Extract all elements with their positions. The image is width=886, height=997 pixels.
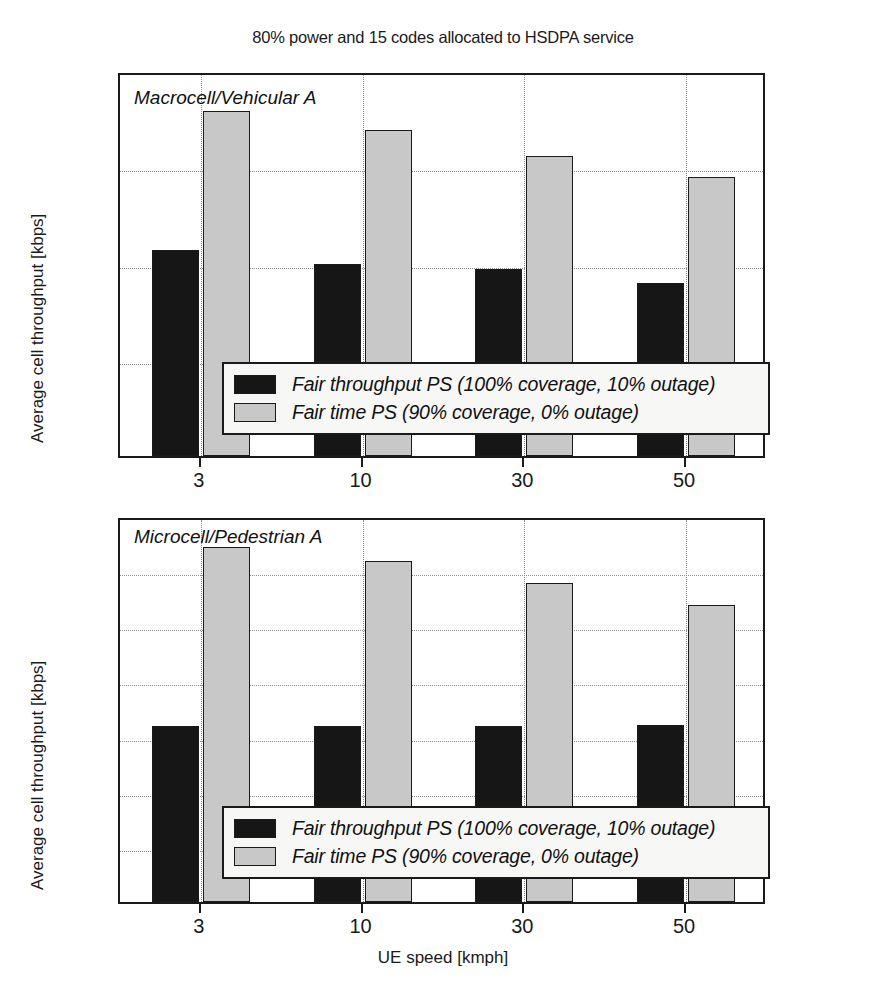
legend-macrocell: Fair throughput PS (100% coverage, 10% o…	[222, 362, 770, 435]
figure-canvas: 80% power and 15 codes allocated to HSDP…	[0, 0, 886, 997]
legend-entry-label: Fair throughput PS (100% coverage, 10% o…	[292, 373, 715, 396]
x-axis-tick	[199, 904, 201, 913]
figure-title: 80% power and 15 codes allocated to HSDP…	[0, 28, 886, 47]
legend-entry-label: Fair throughput PS (100% coverage, 10% o…	[292, 817, 715, 840]
x-axis-tick	[684, 904, 686, 913]
legend-entry: Fair throughput PS (100% coverage, 10% o…	[234, 370, 758, 398]
legend-entry-label: Fair time PS (90% coverage, 0% outage)	[292, 401, 639, 424]
gridline-vertical	[201, 520, 202, 902]
legend-entry-label: Fair time PS (90% coverage, 0% outage)	[292, 845, 639, 868]
x-axis-tick-label: 10	[311, 470, 411, 490]
legend-microcell: Fair throughput PS (100% coverage, 10% o…	[222, 806, 770, 879]
x-axis-tick	[522, 458, 524, 467]
legend-swatch-light-icon	[234, 403, 276, 422]
x-axis-tick-label: 3	[149, 916, 249, 936]
y-axis-title-bottom: Average cell throughput [kbps]	[28, 661, 48, 890]
x-axis-title: UE speed [kmph]	[0, 948, 886, 968]
gridline-vertical	[201, 75, 202, 456]
legend-entry: Fair time PS (90% coverage, 0% outage)	[234, 842, 758, 870]
bar	[152, 250, 199, 456]
x-axis-tick-label: 50	[634, 470, 734, 490]
legend-entry: Fair time PS (90% coverage, 0% outage)	[234, 398, 758, 426]
bar	[152, 726, 199, 902]
x-axis-tick-label: 30	[472, 470, 572, 490]
panel-annotation-macrocell: Macrocell/Vehicular A	[134, 87, 316, 109]
legend-entry: Fair throughput PS (100% coverage, 10% o…	[234, 814, 758, 842]
panel-annotation-microcell: Microcell/Pedestrian A	[134, 526, 322, 548]
legend-swatch-dark-icon	[234, 375, 276, 394]
y-axis-title-top: Average cell throughput [kbps]	[28, 214, 48, 443]
x-axis-tick-label: 3	[149, 470, 249, 490]
x-axis-tick-label: 30	[472, 916, 572, 936]
x-axis-tick	[522, 904, 524, 913]
x-axis-tick	[199, 458, 201, 467]
legend-swatch-dark-icon	[234, 819, 276, 838]
x-axis-tick-label: 50	[634, 916, 734, 936]
legend-swatch-light-icon	[234, 847, 276, 866]
x-axis-tick	[361, 458, 363, 467]
x-axis-tick	[684, 458, 686, 467]
x-axis-tick-label: 10	[311, 916, 411, 936]
x-axis-tick	[361, 904, 363, 913]
